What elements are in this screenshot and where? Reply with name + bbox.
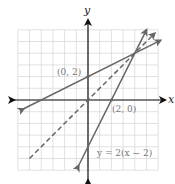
x-axis-label: x — [168, 93, 175, 106]
y-axis-label: y — [83, 4, 91, 17]
point-0-2 — [86, 75, 89, 78]
equation-label: y = 2(x − 2) — [96, 148, 152, 158]
point-label-2-0: (2, 0) — [112, 104, 136, 114]
point-label-0-2: (0, 2) — [57, 67, 81, 77]
coordinate-graph: y x (0, 2) (2, 0) y = 2(x − 2) — [0, 0, 175, 184]
point-2-0 — [110, 98, 113, 101]
series-line — [24, 40, 161, 108]
series-line — [79, 30, 147, 166]
series-lines — [24, 30, 161, 166]
